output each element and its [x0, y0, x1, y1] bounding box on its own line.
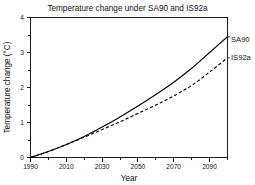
y-tick-label-1: 1 [20, 119, 24, 126]
series-label-sa90: SA90 [231, 35, 250, 44]
x-tick-label-2050: 2050 [131, 163, 146, 170]
temperature-change-line-chart: Temperature change under SA90 and IS92a … [0, 0, 255, 185]
x-axis-title: Year [121, 174, 138, 183]
y-tick-label-3: 3 [20, 49, 24, 56]
x-tick-label-2030: 2030 [95, 163, 110, 170]
y-axis-title: Temperature change (°C) [3, 41, 12, 133]
y-tick-label-4: 4 [20, 14, 24, 21]
x-tick-label-2090: 2090 [202, 163, 217, 170]
y-tick-label-2: 2 [20, 84, 24, 91]
x-tick-label-2010: 2010 [59, 163, 74, 170]
x-tick-label-2070: 2070 [166, 163, 181, 170]
x-tick-label-1990: 1990 [23, 163, 38, 170]
chart-title: Temperature change under SA90 and IS92a [47, 4, 208, 13]
series-label-is92a: IS92a [231, 53, 252, 62]
chart-figure: Temperature change under SA90 and IS92a … [0, 0, 255, 185]
y-tick-label-0: 0 [20, 154, 24, 161]
